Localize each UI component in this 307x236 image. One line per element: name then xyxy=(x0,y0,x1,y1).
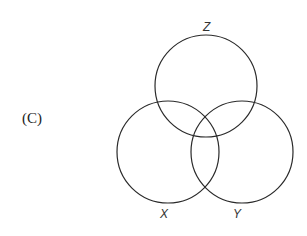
label-z: Z xyxy=(203,20,210,34)
label-y: Y xyxy=(233,207,241,221)
label-x: X xyxy=(160,207,168,221)
circle-y xyxy=(191,101,293,203)
circle-x xyxy=(117,101,219,203)
circle-z xyxy=(155,35,257,137)
venn-diagram xyxy=(0,0,307,236)
